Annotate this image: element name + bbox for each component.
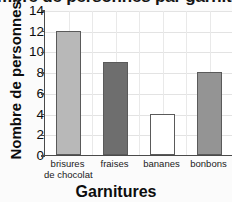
gridline-vertical — [92, 11, 93, 155]
y-axis-tick-mark — [41, 135, 45, 136]
x-axis-category-label-line: bonbons — [190, 158, 226, 169]
y-axis-tick-mark — [41, 10, 45, 11]
bar — [56, 31, 81, 155]
bar — [197, 72, 222, 155]
y-axis-tick-mark — [41, 114, 45, 115]
x-axis-title: Garnitures — [0, 183, 232, 201]
y-axis-tick-mark — [41, 31, 45, 32]
gridline-vertical — [186, 11, 187, 155]
gridline-vertical — [139, 11, 140, 155]
y-axis-tick-mark — [41, 155, 45, 156]
x-axis-category-label: brisuresde chocolat — [44, 158, 91, 180]
bar — [103, 62, 128, 155]
bar-chart: Nombre de personnes par garniture Nombre… — [0, 0, 232, 202]
x-axis-category-label-line: de chocolat — [44, 169, 91, 180]
x-axis-category-labels: brisuresde chocolatfraisesbananesbonbons — [44, 158, 232, 184]
y-axis-tick-mark — [41, 93, 45, 94]
bar — [150, 114, 175, 155]
x-axis-category-label-line: bananes — [143, 158, 179, 169]
x-axis-category-label: bonbons — [185, 158, 232, 169]
x-axis-category-label: fraises — [91, 158, 138, 169]
x-axis-category-label-line: fraises — [101, 158, 129, 169]
x-axis-category-label: bananes — [138, 158, 185, 169]
x-axis-category-label-line: brisures — [51, 158, 85, 169]
y-axis-tick-mark — [41, 52, 45, 53]
plot-area — [44, 11, 232, 156]
y-axis-tick-mark — [41, 72, 45, 73]
